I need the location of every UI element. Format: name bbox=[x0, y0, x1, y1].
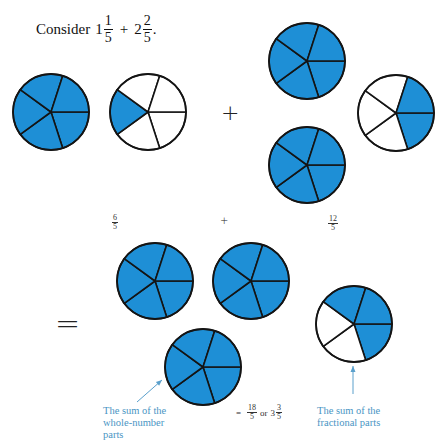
caption-fractional-parts: The sum of the fractional parts bbox=[317, 405, 380, 429]
denominator: 5 bbox=[105, 31, 112, 45]
sum-whole-c bbox=[165, 329, 241, 405]
mixed-number-1-whole: 1 bbox=[95, 21, 103, 38]
circle-1-fifth bbox=[110, 74, 186, 150]
denominator: 5 bbox=[250, 413, 254, 421]
denominator: 5 bbox=[144, 31, 151, 45]
arrowhead-icon bbox=[351, 366, 356, 372]
plus-sign-top: + bbox=[221, 100, 239, 125]
mixed-number-2-whole: 2 bbox=[134, 21, 142, 38]
fraction-six-fifths: 6 5 bbox=[112, 214, 118, 231]
result-improper-fraction: 18 5 bbox=[247, 404, 257, 421]
caption-line: fractional parts bbox=[317, 417, 380, 429]
period: . bbox=[153, 21, 157, 38]
plus-operator: + bbox=[120, 21, 128, 38]
mixed-number-2-fraction: 2 5 bbox=[143, 14, 152, 45]
denominator: 5 bbox=[331, 224, 335, 232]
caption-line: parts bbox=[103, 429, 166, 441]
prompt-label: Consider bbox=[36, 21, 90, 38]
or-label: or bbox=[260, 408, 268, 418]
denominator: 5 bbox=[277, 413, 281, 421]
denominator: 5 bbox=[113, 223, 117, 231]
circle-2-whole-a bbox=[269, 23, 345, 99]
result-mixed-fraction: 3 5 bbox=[276, 404, 282, 421]
caption-line: The sum of the bbox=[317, 405, 380, 417]
problem-statement: Consider 1 1 5 + 2 2 5 . bbox=[36, 14, 156, 45]
circle-2-two-fifths bbox=[358, 75, 434, 151]
whole-parts-arrow bbox=[137, 380, 162, 402]
sum-fraction-three-fifths bbox=[316, 286, 392, 362]
sum-whole-b bbox=[213, 243, 289, 319]
result-mixed-whole: 3 bbox=[271, 408, 276, 418]
fraction-twelve-fifths: 12 5 bbox=[328, 215, 338, 232]
numerator: 1 bbox=[104, 14, 113, 30]
sum-whole-a bbox=[117, 243, 193, 319]
mixed-number-1-fraction: 1 5 bbox=[104, 14, 113, 45]
plus-sign-mid: + bbox=[220, 215, 228, 226]
numerator: 2 bbox=[143, 14, 152, 30]
result-expression: = 18 5 or 3 3 5 bbox=[236, 404, 282, 421]
result-equals: = bbox=[236, 408, 241, 418]
circle-2-whole-b bbox=[269, 127, 345, 203]
caption-whole-number-parts: The sum of the whole-number parts bbox=[103, 405, 166, 441]
circle-1-whole bbox=[13, 74, 89, 150]
fraction-circles bbox=[13, 23, 434, 405]
fractional-parts-arrow bbox=[351, 366, 356, 394]
caption-line: whole-number bbox=[103, 417, 166, 429]
caption-line: The sum of the bbox=[103, 405, 166, 417]
equals-sign: = bbox=[55, 306, 80, 341]
